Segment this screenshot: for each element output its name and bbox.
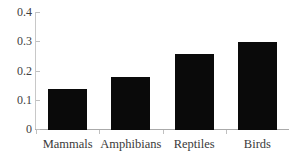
y-axis-tick-label: 0.4	[2, 6, 32, 18]
bar	[48, 89, 87, 130]
y-axis-tick-labels: 00.10.20.30.4	[0, 0, 32, 155]
bar	[111, 77, 150, 130]
y-axis-tick-label: 0.1	[2, 94, 32, 106]
y-axis-tick-mark	[36, 41, 40, 42]
x-axis-category-label: Reptiles	[174, 136, 215, 152]
bar	[175, 54, 214, 130]
y-axis-tick-mark	[36, 100, 40, 101]
plot-area	[36, 12, 289, 130]
x-axis-category-label: Birds	[244, 136, 271, 152]
x-axis-category-label: Mammals	[43, 136, 93, 152]
x-axis-category-labels: MammalsAmphibiansReptilesBirds	[36, 136, 289, 155]
y-axis-tick-label: 0.2	[2, 65, 32, 77]
x-axis-tick-mark	[36, 130, 37, 134]
y-axis-tick-label: 0.3	[2, 35, 32, 47]
y-axis-tick-mark	[36, 12, 40, 13]
y-axis-tick-label: 0	[2, 123, 32, 135]
bar-chart-figure: 00.10.20.30.4 MammalsAmphibiansReptilesB…	[0, 0, 289, 155]
x-axis-tick-mark	[163, 130, 164, 134]
x-axis-tick-mark	[99, 130, 100, 134]
bar	[238, 42, 277, 130]
y-axis-tick-mark	[36, 71, 40, 72]
x-axis-tick-mark	[226, 130, 227, 134]
x-axis-category-label: Amphibians	[100, 136, 161, 152]
